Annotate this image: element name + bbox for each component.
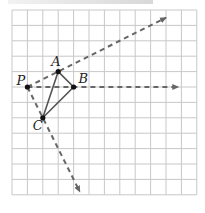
grid <box>12 10 197 195</box>
label-c: C <box>33 118 43 133</box>
dashed-rays <box>27 18 178 192</box>
ray-PA <box>27 18 166 87</box>
label-a: A <box>50 54 60 69</box>
dilation-diagram: PABC <box>0 0 205 213</box>
point-p <box>25 84 30 89</box>
point-a <box>56 69 61 74</box>
point-b <box>71 84 76 89</box>
label-b: B <box>78 71 89 86</box>
label-p: P <box>15 73 25 88</box>
